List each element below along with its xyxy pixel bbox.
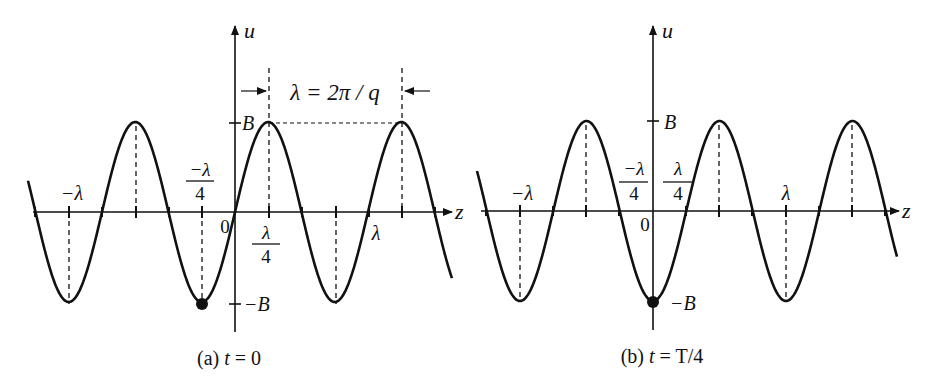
u-axis-label: u <box>662 18 673 43</box>
z-axis-label: z <box>454 199 464 224</box>
origin-label: 0 <box>640 214 650 235</box>
neg-b-label: −B <box>244 293 270 315</box>
svg-text:λ: λ <box>673 158 682 179</box>
panel-b: z u B −B −λ <box>477 18 911 368</box>
origin-label: 0 <box>220 216 230 237</box>
lambda-label: λ <box>781 182 791 204</box>
neg-b-label: −B <box>670 292 696 314</box>
wavelength-annotation: λ = 2π / q <box>241 80 430 105</box>
quarter-lambda-label: λ 4 <box>252 222 280 267</box>
svg-text:λ: λ <box>261 222 270 243</box>
z-axis-label: z <box>901 198 911 223</box>
svg-text:−λ: −λ <box>623 158 644 179</box>
b-label: B <box>242 112 254 134</box>
u-axis-label: u <box>244 18 255 43</box>
marked-point <box>647 296 659 308</box>
svg-text:4: 4 <box>195 183 205 204</box>
b-label: B <box>664 111 676 133</box>
marked-point <box>196 298 208 310</box>
svg-text:4: 4 <box>629 183 639 204</box>
neg-quarter-lambda-label: −λ 4 <box>186 159 214 204</box>
neg-lambda-label: −λ <box>61 182 83 204</box>
lambda-label: λ <box>371 222 381 244</box>
panel-a: z u B −B <box>28 18 464 370</box>
quarter-lambda-label: λ 4 <box>663 158 692 204</box>
neg-lambda-label: −λ <box>511 182 533 204</box>
caption-b: (b) t = T/4 <box>621 345 704 368</box>
svg-text:−λ: −λ <box>189 159 210 180</box>
svg-text:4: 4 <box>261 246 271 267</box>
wavelength-formula: λ = 2π / q <box>289 80 379 105</box>
svg-text:4: 4 <box>673 183 683 204</box>
neg-quarter-lambda-label: −λ 4 <box>619 158 648 204</box>
wave-diagram: z u B −B <box>0 0 934 383</box>
caption-a: (a) t = 0 <box>197 347 261 370</box>
